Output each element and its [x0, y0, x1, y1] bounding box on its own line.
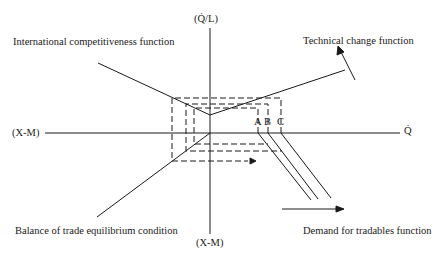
axis-label-top: (Q̇/L)	[194, 14, 218, 25]
demand-line-c	[281, 133, 331, 198]
label-balance-of-trade: Balance of trade equilibrium condition	[15, 226, 178, 237]
point-label-b: B	[264, 117, 271, 128]
international-competitiveness-line	[98, 63, 210, 115]
axis-label-bottom: (X-M)	[196, 238, 223, 249]
label-technical-change: Technical change function	[303, 36, 414, 47]
technical-change-arrow-shaft	[341, 52, 355, 80]
axis-label-right: Q̇	[404, 126, 412, 137]
dashed-path-c	[172, 98, 281, 161]
axis-label-left: (X-M)	[12, 128, 39, 139]
technical-change-arrow-head	[337, 46, 344, 55]
demand-shift-arrow-head	[336, 206, 344, 212]
point-label-a: A	[254, 117, 262, 128]
demand-line-a	[258, 133, 311, 200]
demand-line-b	[268, 133, 318, 199]
label-demand-for-tradables: Demand for tradables function	[303, 226, 432, 237]
balance-of-trade-line	[97, 133, 210, 217]
label-international-competitiveness: International competitiveness function	[13, 37, 175, 48]
technical-change-line	[210, 70, 345, 115]
dashed-arrow-head	[250, 158, 256, 164]
point-label-c: C	[277, 117, 284, 128]
